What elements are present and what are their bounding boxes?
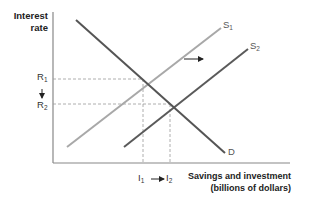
- supply-curve-s2: [124, 49, 248, 147]
- s2-label: S2: [250, 40, 260, 52]
- y-axis-title: Interest rate: [2, 10, 48, 34]
- r2-label: R2: [37, 100, 48, 113]
- r1-label: R1: [37, 72, 48, 85]
- demand-curve-d: [76, 20, 225, 153]
- x-axis-title: Savings and investment (billions of doll…: [175, 170, 291, 194]
- i1-label: I1: [138, 173, 144, 186]
- i2-label: I2: [166, 173, 172, 186]
- d-label: D: [228, 146, 235, 157]
- s1-label: S1: [223, 19, 233, 31]
